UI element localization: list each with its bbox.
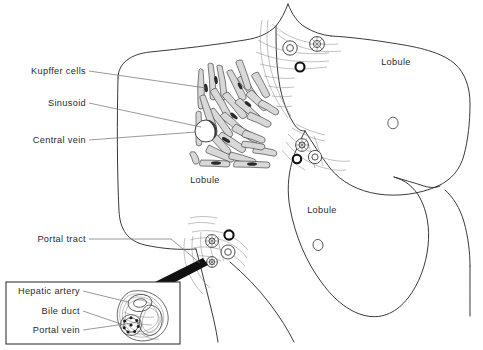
label-portal-tract: Portal tract (37, 234, 86, 244)
portal-triad-mid (293, 139, 322, 164)
liver-histology-figure: Kupffer cells Sinusoid Central vein Port… (0, 0, 483, 350)
label-kupffer-cells: Kupffer cells (31, 66, 86, 76)
label-bile-duct: Bile duct (42, 306, 80, 316)
magnified-portal-tract-marker (207, 257, 218, 268)
label-lobule-upper-right: Lobule (381, 57, 411, 67)
hepatic-artery-vessel (206, 235, 219, 248)
lobule-far-right-fragment (445, 190, 470, 266)
central-vein-lower-right (312, 238, 324, 251)
label-sinusoid: Sinusoid (48, 98, 86, 108)
portal-triad-upper (283, 37, 325, 72)
kupffer-cell (247, 162, 257, 166)
bile-duct-vessel (296, 63, 305, 72)
label-portal-vein: Portal vein (33, 325, 80, 335)
leader-central-vein (89, 132, 196, 140)
kupffer-cell (211, 161, 221, 165)
portal-vein-lumen (312, 154, 318, 160)
leader-portal-tract (89, 239, 200, 263)
label-lobule-left: Lobule (190, 175, 220, 185)
portal-triad-lower (206, 230, 235, 267)
hepatic-artery-vessel (310, 37, 325, 52)
leader-kupffer-cells (89, 71, 206, 88)
diagram-page: Kupffer cells Sinusoid Central vein Port… (0, 0, 483, 350)
label-lobule-lower-right: Lobule (307, 205, 337, 215)
portal-tract-fibers-lower (184, 217, 248, 295)
portal-vein-lumen (287, 45, 294, 52)
central-vein-upper-right (388, 117, 398, 129)
lobule-upper-right-outline-lower (305, 131, 438, 195)
label-hepatic-artery: Hepatic artery (18, 286, 80, 296)
central-vein-main (195, 120, 217, 142)
lobule-left-outline (118, 4, 288, 78)
label-central-vein: Central vein (33, 135, 86, 145)
leader-sinusoid (89, 103, 201, 127)
lobule-lower-middle-boundary (230, 262, 294, 342)
hepatic-artery-vessel (296, 139, 309, 152)
bile-duct-vessel (224, 230, 233, 239)
lobule-lower-right-top-edge (394, 177, 440, 188)
inset-bile-duct (121, 315, 142, 336)
lobule-upper-spur (288, 4, 331, 36)
portal-vein-lumen (225, 249, 232, 256)
lobule-left-outline-lower (117, 78, 196, 249)
bile-duct-vessel (293, 155, 301, 163)
